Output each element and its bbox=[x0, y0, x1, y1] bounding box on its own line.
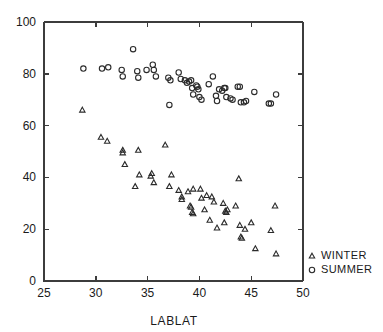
y-tick-label: 40 bbox=[23, 170, 37, 184]
x-tick-label: 25 bbox=[37, 286, 51, 300]
x-axis-title: LABLAT bbox=[150, 314, 197, 328]
y-tick-label: 80 bbox=[23, 67, 37, 81]
x-tick-label: 45 bbox=[245, 286, 259, 300]
x-tick-label: 40 bbox=[193, 286, 207, 300]
legend-label-summer: SUMMER bbox=[321, 263, 372, 275]
x-tick-label: 30 bbox=[89, 286, 103, 300]
x-tick-label: 50 bbox=[296, 286, 310, 300]
y-tick-label: 100 bbox=[16, 15, 36, 29]
x-tick-label: 35 bbox=[141, 286, 155, 300]
legend-label-winter: WINTER bbox=[321, 249, 367, 261]
y-tick-label: 20 bbox=[23, 222, 37, 236]
y-tick-label: 60 bbox=[23, 119, 37, 133]
figure-background bbox=[0, 0, 383, 332]
scatter-plot-figure: 253035404550020406080100 WINTERSUMMER LA… bbox=[0, 0, 383, 332]
y-tick-label: 0 bbox=[29, 274, 36, 288]
